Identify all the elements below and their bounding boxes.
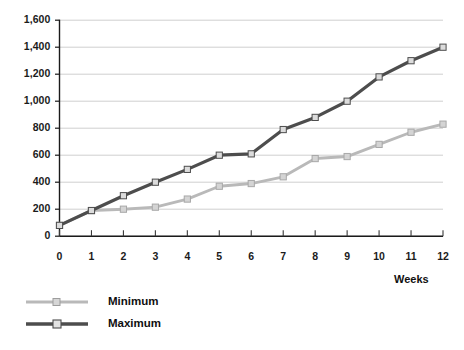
data-point-marker bbox=[440, 121, 446, 127]
data-point-marker bbox=[280, 174, 286, 180]
data-point-marker bbox=[312, 155, 318, 161]
y-tick-label: 400 bbox=[7, 175, 51, 187]
gridlines bbox=[60, 20, 444, 236]
legend-item-minimum[interactable]: Minimum bbox=[24, 292, 254, 314]
data-point-marker bbox=[248, 180, 254, 186]
x-tick-label: 7 bbox=[272, 250, 294, 262]
data-point-marker bbox=[120, 193, 126, 199]
y-tick-label: 1,000 bbox=[7, 94, 51, 106]
series-line bbox=[60, 124, 444, 225]
data-point-marker bbox=[184, 196, 190, 202]
data-point-marker bbox=[376, 74, 382, 80]
y-tick-label: 200 bbox=[7, 202, 51, 214]
x-tick-label: 1 bbox=[80, 250, 102, 262]
legend-item-maximum[interactable]: Maximum bbox=[24, 314, 254, 336]
x-tick-label: 12 bbox=[432, 250, 454, 262]
x-tick-label: 8 bbox=[304, 250, 326, 262]
data-point-marker bbox=[152, 179, 158, 185]
x-tick-label: 9 bbox=[336, 250, 358, 262]
data-point-marker bbox=[280, 126, 286, 132]
x-tick-label: 5 bbox=[208, 250, 230, 262]
y-tick-label: 1,400 bbox=[7, 40, 51, 52]
x-tick-label: 10 bbox=[368, 250, 390, 262]
x-tick-label: 2 bbox=[112, 250, 134, 262]
data-point-marker bbox=[408, 129, 414, 135]
data-point-marker bbox=[344, 98, 350, 104]
y-tick-label: 1,600 bbox=[7, 13, 51, 25]
x-tick-label: 0 bbox=[49, 250, 71, 262]
data-point-marker bbox=[376, 141, 382, 147]
data-point-marker bbox=[184, 166, 190, 172]
legend-swatch-maximum bbox=[24, 314, 90, 334]
x-tick-label: 6 bbox=[240, 250, 262, 262]
y-tick-label: 0 bbox=[7, 229, 51, 241]
x-tick-label: 11 bbox=[400, 250, 422, 262]
data-point-marker bbox=[152, 204, 158, 210]
chart-legend: Minimum Maximum bbox=[24, 292, 254, 336]
legend-label-minimum: Minimum bbox=[108, 295, 158, 307]
y-tick-label: 600 bbox=[7, 148, 51, 160]
series-minimum bbox=[56, 121, 446, 228]
x-tick-label: 4 bbox=[176, 250, 198, 262]
legend-swatch-minimum bbox=[24, 292, 90, 312]
series-maximum bbox=[56, 44, 446, 228]
line-chart: 02004006008001,0001,2001,4001,600 012345… bbox=[0, 0, 464, 350]
data-point-marker bbox=[344, 153, 350, 159]
data-point-marker bbox=[248, 151, 254, 157]
y-tick-label: 800 bbox=[7, 121, 51, 133]
x-axis-title: Weeks bbox=[394, 273, 429, 285]
data-point-marker bbox=[88, 207, 94, 213]
x-axis-ticks bbox=[60, 230, 444, 236]
legend-label-maximum: Maximum bbox=[108, 317, 161, 329]
data-point-marker bbox=[408, 58, 414, 64]
data-point-marker bbox=[440, 44, 446, 50]
data-point-marker bbox=[216, 152, 222, 158]
data-point-marker bbox=[216, 183, 222, 189]
y-tick-label: 1,200 bbox=[7, 67, 51, 79]
data-point-marker bbox=[120, 206, 126, 212]
data-point-marker bbox=[312, 114, 318, 120]
x-tick-label: 3 bbox=[144, 250, 166, 262]
data-point-marker bbox=[56, 222, 62, 228]
